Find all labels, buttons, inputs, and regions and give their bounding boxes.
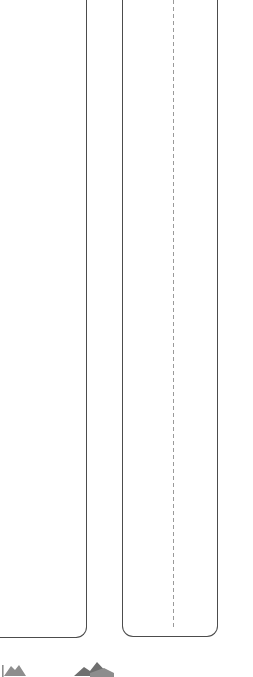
left-panel-bottom-edge bbox=[0, 637, 77, 638]
right-panel[interactable] bbox=[122, 0, 218, 637]
left-panel[interactable] bbox=[0, 0, 87, 638]
cropped-glyph-center bbox=[70, 659, 116, 677]
document-canvas bbox=[0, 0, 253, 677]
fold-guide-line bbox=[173, 0, 174, 629]
cropped-glyph-left bbox=[2, 661, 36, 677]
